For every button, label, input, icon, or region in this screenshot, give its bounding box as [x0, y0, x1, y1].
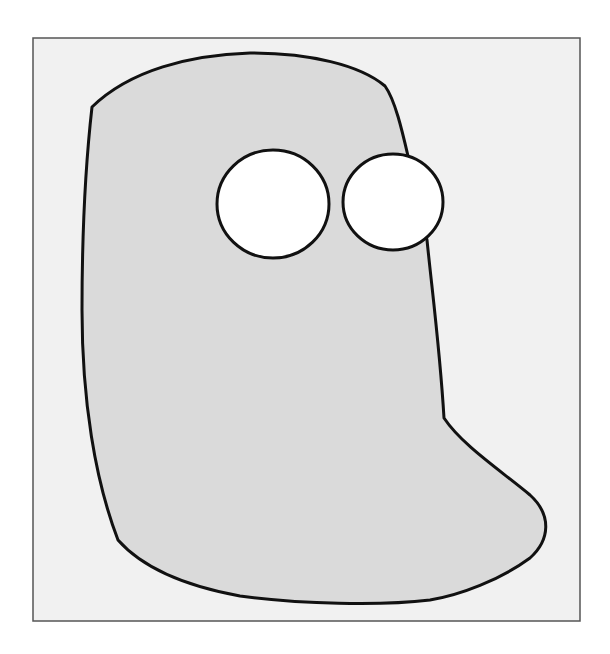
- figure-svg: [0, 0, 610, 654]
- right-eye: [343, 154, 443, 250]
- figure-canvas: [0, 0, 610, 654]
- left-eye: [217, 150, 329, 258]
